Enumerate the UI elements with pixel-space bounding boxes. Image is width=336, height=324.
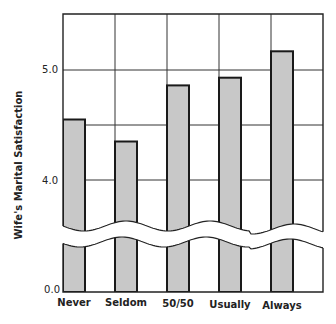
x-tick-seldom: Seldom (105, 297, 147, 308)
x-tick-never: Never (57, 297, 90, 308)
x-tick-5050: 50/50 (162, 298, 194, 309)
bar-chart: Wife's Marital Satisfaction 5.0 4.0 0.0 … (0, 0, 336, 324)
bar-5050 (167, 85, 189, 260)
bar-usually (219, 78, 241, 260)
y-tick-4: 4.0 (42, 175, 58, 186)
y-tick-5: 5.0 (42, 64, 58, 75)
y-axis-label: Wife's Marital Satisfaction (13, 91, 24, 240)
plot-area (63, 14, 323, 292)
x-tick-usually: Usually (209, 299, 251, 310)
bar-never (63, 120, 85, 261)
x-tick-always: Always (262, 300, 301, 311)
y-tick-0: 0.0 (44, 284, 60, 295)
upper-segment (63, 14, 323, 260)
lower-segment (63, 220, 323, 292)
